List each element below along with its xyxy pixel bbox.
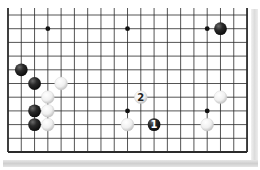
- white-stone-icon: [41, 118, 54, 131]
- black-stone[interactable]: [28, 105, 41, 118]
- black-stone-icon: [28, 118, 41, 131]
- star-point-icon: [125, 26, 130, 31]
- white-stone[interactable]: [41, 105, 54, 118]
- white-stone-move-2[interactable]: 2: [134, 91, 147, 104]
- black-stone[interactable]: [28, 77, 41, 90]
- white-stone-icon: [214, 91, 227, 104]
- star-point-icon: [205, 26, 210, 31]
- black-stone-icon: [28, 105, 41, 118]
- white-stone-icon: [41, 91, 54, 104]
- white-stone[interactable]: [201, 118, 214, 131]
- white-stone[interactable]: [41, 118, 54, 131]
- black-stone-move-1[interactable]: 1: [148, 118, 161, 131]
- black-stone-icon: [214, 22, 227, 35]
- star-point-icon: [45, 26, 50, 31]
- star-point-icon: [125, 109, 130, 114]
- go-board[interactable]: 21: [0, 0, 260, 170]
- star-point-icon: [205, 109, 210, 114]
- move-number-label: 1: [151, 119, 158, 130]
- black-stone[interactable]: [15, 63, 28, 76]
- black-stone[interactable]: [214, 22, 227, 35]
- white-stone-icon: [41, 105, 54, 118]
- white-stone[interactable]: [121, 118, 134, 131]
- white-stone[interactable]: [55, 77, 68, 90]
- black-stone-icon: [28, 77, 41, 90]
- move-number-label: 2: [137, 92, 144, 103]
- black-stone-icon: [15, 63, 28, 76]
- white-stone[interactable]: [41, 91, 54, 104]
- go-board-diagram: 21: [0, 0, 260, 170]
- white-stone-icon: [121, 118, 134, 131]
- white-stone-icon: [201, 118, 214, 131]
- black-stone[interactable]: [28, 118, 41, 131]
- white-stone-icon: [55, 77, 68, 90]
- white-stone[interactable]: [214, 91, 227, 104]
